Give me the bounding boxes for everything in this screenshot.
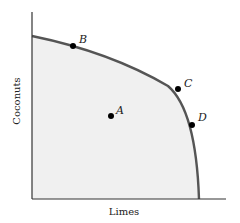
ppf-chart: A B C D Limes Coconuts bbox=[0, 0, 240, 223]
y-axis-label: Coconuts bbox=[11, 77, 22, 124]
point-c-label: C bbox=[184, 77, 193, 90]
point-a-label: A bbox=[115, 104, 124, 117]
point-d-label: D bbox=[197, 111, 207, 124]
point-b bbox=[70, 43, 76, 49]
point-a bbox=[108, 113, 114, 119]
point-d bbox=[189, 122, 195, 128]
point-c bbox=[175, 86, 181, 92]
x-axis-label: Limes bbox=[109, 206, 139, 217]
point-b-label: B bbox=[78, 33, 87, 46]
